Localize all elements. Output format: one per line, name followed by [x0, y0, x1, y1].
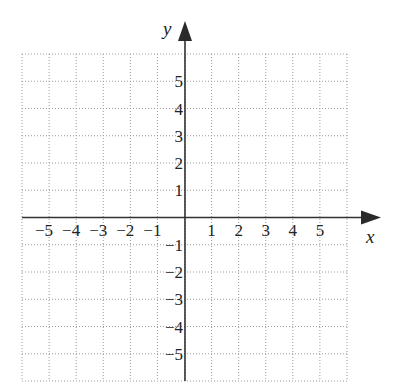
x-tick-label: −5 [35, 221, 53, 240]
y-tick-label: −4 [165, 318, 184, 337]
x-axis-label: x [365, 226, 375, 247]
y-tick-label: 1 [175, 181, 184, 200]
y-tick-label: −2 [165, 263, 183, 282]
y-tick-label: −1 [165, 236, 183, 255]
x-tick-label: −3 [89, 221, 107, 240]
coordinate-plane: x y −5−4−3−2−112345 54321−1−2−3−4−5 [0, 0, 412, 389]
y-tick-label: 2 [175, 154, 184, 173]
y-tick-label: 3 [175, 127, 184, 146]
y-tick-label: −5 [165, 345, 183, 364]
x-tick-label: −1 [143, 221, 161, 240]
x-tick-label: 5 [316, 221, 325, 240]
x-tick-label: 2 [234, 221, 243, 240]
x-tick-label: 1 [207, 221, 216, 240]
x-tick-label: 4 [289, 221, 298, 240]
x-axis-arrow-icon [361, 211, 381, 225]
y-tick-label: −3 [165, 290, 183, 309]
x-tick-label: 3 [262, 221, 271, 240]
y-axis-arrow-icon [178, 21, 192, 41]
y-tick-label: 4 [175, 100, 184, 119]
x-tick-label: −2 [116, 221, 134, 240]
y-tick-label: 5 [175, 72, 184, 91]
x-tick-label: −4 [62, 221, 81, 240]
y-axis-label: y [161, 18, 172, 39]
